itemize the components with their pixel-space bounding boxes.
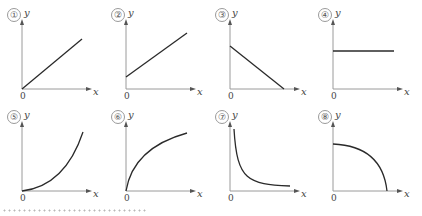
graph-panel-6: ⑥ y x 0 — [109, 106, 214, 208]
graph-plot — [109, 106, 214, 208]
dotted-separator — [2, 209, 146, 212]
graph-plot — [5, 106, 110, 208]
graph-panel-2: ② y x 0 — [109, 4, 214, 106]
graph-panel-4: ④ y x 0 — [316, 4, 421, 106]
graph-plot — [213, 4, 318, 106]
graph-plot — [316, 106, 421, 208]
graph-panel-5: ⑤ y x 0 — [5, 106, 110, 208]
quarter-circle-arc — [333, 144, 387, 191]
graph-plot — [213, 106, 318, 208]
graph-panel-7: ⑦ y x 0 — [213, 106, 318, 208]
graph-plot — [5, 4, 110, 106]
hyperbola-curve — [234, 129, 290, 186]
graph-panel-3: ③ y x 0 — [213, 4, 318, 106]
sqrt-curve — [126, 133, 187, 191]
linear-line — [126, 33, 187, 77]
decreasing-line — [230, 46, 284, 89]
graph-plot — [109, 4, 214, 106]
graph-panel-8: ⑧ y x 0 — [316, 106, 421, 208]
proportional-line — [22, 39, 82, 89]
graph-panel-1: ① y x 0 — [5, 4, 110, 106]
graph-plot — [316, 4, 421, 106]
parabola-curve — [22, 132, 83, 191]
